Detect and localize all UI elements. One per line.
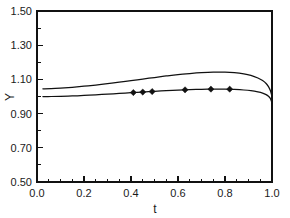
y-tick-label: 1.30 [11,39,32,51]
x-tick-label: 0.4 [123,187,138,199]
line-chart: 0.500.700.901.101.301.50 0.00.20.40.60.8… [0,0,290,218]
y-tick-label: 1.50 [11,5,32,17]
y-axis-title: Y [3,93,17,101]
y-tick-label: 0.90 [11,108,32,120]
x-tick-label: 0.6 [170,187,185,199]
x-tick-label: 0.0 [29,187,44,199]
chart-container: 0.500.700.901.101.301.50 0.00.20.40.60.8… [0,0,290,218]
y-tick-label: 0.70 [11,142,32,154]
chart-background [0,0,290,218]
x-tick-label: 0.8 [217,187,232,199]
x-tick-label: 0.2 [76,187,91,199]
x-tick-label: 1.0 [264,187,279,199]
y-tick-label: 1.10 [11,73,32,85]
